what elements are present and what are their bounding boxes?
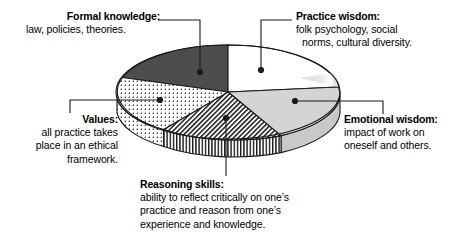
callout-body-reasoning-skills-line1: ability to reflect critically on one’s — [140, 191, 380, 204]
callout-body-reasoning-skills-line3: experience and knowledge. — [140, 218, 380, 231]
callout-body-practice-wisdom-line2: norms, cultural diversity. — [296, 36, 455, 49]
anchor-dot-formal-knowledge — [197, 69, 203, 75]
callout-heading-reasoning-skills: Reasoning skills: — [140, 178, 380, 191]
callout-heading-formal-knowledge: Formal knowledge: — [18, 10, 170, 23]
anchor-dot-reasoning-skills — [223, 115, 229, 121]
callout-values: Values: all practice takes place in an e… — [0, 113, 118, 166]
callout-formal-knowledge: Formal knowledge: law, policies, theorie… — [18, 10, 170, 36]
anchor-dot-practice-wisdom — [258, 67, 264, 73]
callout-reasoning-skills: Reasoning skills: ability to reflect cri… — [140, 178, 380, 231]
pie-slice-practice-wisdom[interactable] — [228, 45, 339, 92]
callout-heading-emotional-wisdom: Emotional wisdom: — [344, 113, 455, 126]
anchor-dot-values — [157, 97, 163, 103]
callout-body-emotional-wisdom-line2: oneself and others. — [344, 139, 455, 152]
callout-heading-practice-wisdom: Practice wisdom: — [296, 10, 455, 23]
callout-body-values-line2: place in an ethical — [0, 139, 118, 152]
callout-body-values-line1: all practice takes — [0, 126, 118, 139]
callout-heading-values: Values: — [0, 113, 118, 126]
callout-body-values-line3: framework. — [0, 153, 118, 166]
callout-practice-wisdom: Practice wisdom: folk psychology, social… — [296, 10, 455, 50]
callout-body-reasoning-skills-line2: practice and reason from one’s — [140, 204, 380, 217]
callout-body-formal-knowledge-line1: law, policies, theories. — [18, 23, 170, 36]
callout-body-emotional-wisdom-line1: impact of work on — [344, 126, 455, 139]
callout-emotional-wisdom: Emotional wisdom: impact of work on ones… — [344, 113, 455, 153]
callout-body-practice-wisdom-line1: folk psychology, social — [296, 23, 455, 36]
figure-canvas: Formal knowledge: law, policies, theorie… — [0, 0, 455, 242]
anchor-dot-emotional-wisdom — [292, 98, 298, 104]
